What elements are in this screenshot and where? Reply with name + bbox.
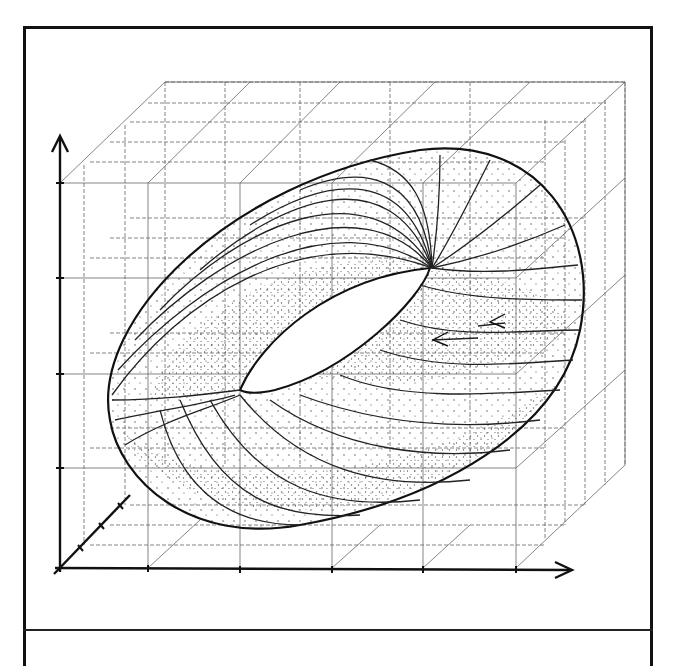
x-axis [55, 568, 570, 570]
z-axis [54, 495, 130, 574]
torus [108, 148, 584, 528]
